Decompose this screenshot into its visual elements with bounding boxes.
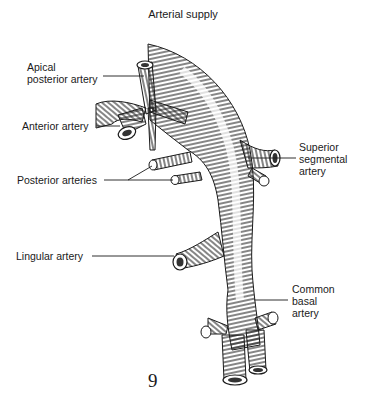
label-posterior-arteries: Posterior arteries [17,174,97,186]
label-superior-segmental-artery: Superior segmental artery [299,141,347,177]
lingular-branch [173,232,224,270]
anterior-branch [96,101,146,142]
leader-posterior-1 [104,166,152,180]
label-anterior-artery: Anterior artery [22,120,89,132]
label-lingular-artery: Lingular artery [16,250,83,262]
page-number: 9 [148,370,158,392]
main-pulmonary-trunk [148,44,260,350]
label-common-basal-artery: Common basal artery [292,283,335,319]
label-apical-posterior-artery: Apical posterior artery [27,61,98,85]
